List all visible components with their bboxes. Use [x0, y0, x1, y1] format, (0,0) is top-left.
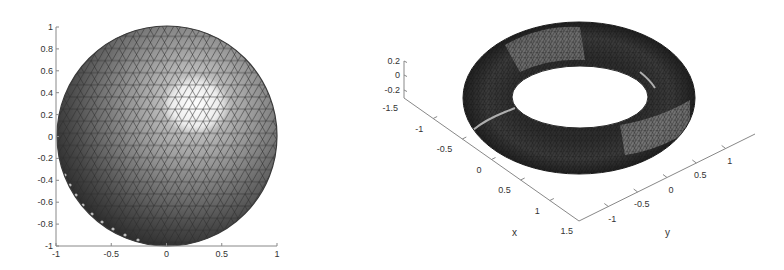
- x-tick-label: 1: [535, 206, 540, 216]
- y-tick-label: 1: [48, 22, 53, 32]
- y-tick-label: 0: [668, 185, 673, 195]
- y-tick-label: -0.8: [37, 219, 53, 229]
- z-tick-label: 0: [395, 70, 400, 80]
- x-tick-label: -1: [415, 124, 423, 134]
- y-tick-label: 0.2: [40, 110, 53, 120]
- y-tick-label: 0.4: [40, 88, 53, 98]
- y-tick-label: -0.6: [37, 197, 53, 207]
- y-tick-label: 0.6: [40, 66, 53, 76]
- sphere-plot: 10.80.60.40.20-0.2-0.4-0.6-0.8-1 -1-0.50…: [37, 20, 290, 260]
- x-tick-label: -1: [52, 249, 60, 259]
- z-tick-label: -0.2: [384, 85, 400, 95]
- y-tick-label: 0.8: [40, 44, 53, 54]
- x-tick-label: -0.5: [103, 249, 119, 259]
- x-tick-label: 0: [164, 249, 169, 259]
- x-tick-label: -1.5: [382, 103, 398, 113]
- y-tick-mark: [722, 146, 726, 149]
- x-tick-label: 1.5: [560, 226, 573, 236]
- y-tick-label: -0.2: [37, 153, 53, 163]
- sphere-y-axis: 10.80.60.40.20-0.2-0.4-0.6-0.8-1: [37, 22, 59, 251]
- x-tick-label: 0: [476, 165, 481, 175]
- torus-surface: [460, 20, 700, 180]
- z-tick-label: 0.2: [387, 56, 400, 66]
- y-tick-label: -1: [608, 214, 616, 224]
- y-tick-mark: [604, 204, 608, 207]
- torus-y-label: y: [665, 227, 670, 238]
- torus-z-axis: 0.20-0.2: [384, 56, 407, 98]
- x-tick-mark: [433, 117, 437, 119]
- y-tick-label: -0.5: [634, 199, 650, 209]
- y-tick-label: -0.4: [37, 175, 53, 185]
- x-tick-label: 1: [274, 249, 279, 259]
- x-tick-mark: [550, 199, 554, 201]
- sphere-surface: [50, 20, 290, 260]
- y-tick-mark: [634, 189, 638, 192]
- x-tick-label: 0.5: [215, 249, 228, 259]
- y-tick-label: 0.5: [694, 170, 707, 180]
- figure: 10.80.60.40.20-0.2-0.4-0.6-0.8-1 -1-0.50…: [0, 0, 784, 270]
- y-tick-label: 0: [48, 132, 53, 142]
- x-tick-label: 0.5: [498, 185, 511, 195]
- torus-plot: 0.20-0.2 -1.5-1-0.500.511.5 x -1-0.500.5…: [382, 20, 755, 238]
- x-tick-label: -0.5: [437, 144, 453, 154]
- y-tick-label: 1: [727, 156, 732, 166]
- torus-x-label: x: [512, 227, 517, 238]
